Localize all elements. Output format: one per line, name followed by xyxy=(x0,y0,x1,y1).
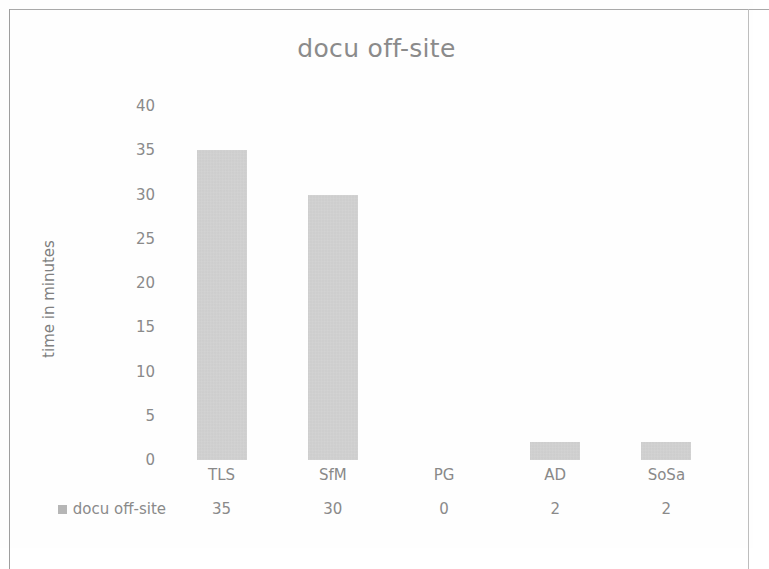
data-table-cell: 2 xyxy=(611,494,722,524)
y-tick-label: 10 xyxy=(115,363,155,381)
y-tick-label: 5 xyxy=(115,407,155,425)
y-tick-label: 35 xyxy=(115,141,155,159)
data-table-cell: 30 xyxy=(277,494,388,524)
y-tick-label: 0 xyxy=(115,451,155,469)
x-category-label: TLS xyxy=(166,466,277,484)
y-tick-label: 25 xyxy=(115,230,155,248)
bar xyxy=(530,442,580,460)
y-tick-label: 40 xyxy=(115,97,155,115)
chart-title: docu off-site xyxy=(0,34,753,63)
data-table-cell: 2 xyxy=(500,494,611,524)
bar xyxy=(308,195,358,461)
data-table-cell: 35 xyxy=(166,494,277,524)
x-category-label: AD xyxy=(500,466,611,484)
y-tick-label: 15 xyxy=(115,318,155,336)
legend-swatch-icon xyxy=(58,505,67,514)
plot-area: 0510152025303540TLSSfMPGADSoSa xyxy=(166,106,722,460)
x-category-label: PG xyxy=(388,466,499,484)
x-category-label: SfM xyxy=(277,466,388,484)
y-axis-title: time in minutes xyxy=(40,219,58,379)
bar xyxy=(197,150,247,460)
y-tick-label: 20 xyxy=(115,274,155,292)
data-table-cell: 0 xyxy=(388,494,499,524)
x-category-label: SoSa xyxy=(611,466,722,484)
bar xyxy=(641,442,691,460)
y-tick-label: 30 xyxy=(115,186,155,204)
legend-key: docu off-site xyxy=(22,500,166,518)
legend-series-label: docu off-site xyxy=(73,500,166,518)
data-table-row: docu off-site 3530022 xyxy=(22,494,722,524)
